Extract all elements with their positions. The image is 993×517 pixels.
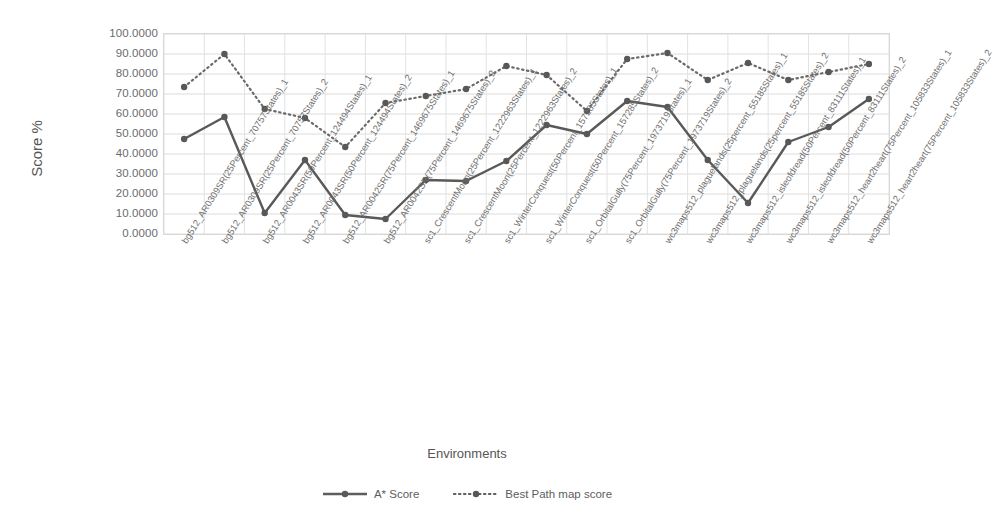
y-axis-tick-label: 70.0000	[116, 87, 158, 99]
data-point	[463, 86, 469, 92]
y-axis-tick-label: 100.0000	[109, 27, 158, 39]
data-point	[624, 56, 630, 62]
data-point	[342, 212, 348, 218]
data-point	[221, 114, 227, 120]
data-point	[342, 144, 348, 150]
y-axis-tick-label: 20.0000	[116, 187, 158, 199]
data-point	[221, 51, 227, 57]
y-axis-tick-label: 80.0000	[116, 67, 158, 79]
legend-item: Best Path map score	[453, 488, 612, 500]
data-point	[261, 210, 267, 216]
data-point	[584, 131, 590, 137]
y-axis-title-text: Score %	[28, 120, 45, 177]
y-axis-tick-label: 10.0000	[116, 207, 158, 219]
y-axis-tick-label: 60.0000	[116, 107, 158, 119]
y-axis-tick-labels: 100.000090.000080.000070.000060.000050.0…	[100, 28, 162, 243]
data-point	[181, 136, 187, 142]
data-point	[785, 139, 791, 145]
y-axis-tick-label: 30.0000	[116, 167, 158, 179]
legend-swatch-dotted	[453, 488, 499, 500]
y-axis-tick-label: 50.0000	[116, 127, 158, 139]
chart-legend: A* ScoreBest Path map score	[0, 488, 934, 500]
y-axis-tick-label: 40.0000	[116, 147, 158, 159]
data-point	[503, 63, 509, 69]
data-point	[181, 84, 187, 90]
data-point	[664, 50, 670, 56]
x-axis-tick-labels: bg512_AR0309SR(25Percent_70757States)_1b…	[0, 236, 934, 436]
data-point	[543, 72, 549, 78]
y-axis-tick-label: 90.0000	[116, 47, 158, 59]
y-axis-title: Score %	[22, 88, 50, 208]
data-point	[382, 216, 388, 222]
data-point	[745, 60, 751, 66]
data-point	[785, 77, 791, 83]
x-axis-title: Environments	[0, 446, 934, 461]
legend-label: Best Path map score	[505, 488, 612, 500]
legend-item: A* Score	[322, 488, 419, 500]
legend-swatch-solid	[322, 488, 368, 500]
data-point	[705, 77, 711, 83]
data-point	[302, 157, 308, 163]
data-point	[825, 69, 831, 75]
data-point	[745, 200, 751, 206]
legend-label: A* Score	[374, 488, 419, 500]
